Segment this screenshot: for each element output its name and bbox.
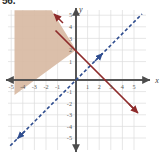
graph-svg: -5 -4 -3 -2 -1 1 2 3 4 5 5 4 3 2 1 -1 -2… xyxy=(0,6,168,160)
x-tick-label: 4 xyxy=(121,83,124,90)
x-tick-label: -2 xyxy=(43,83,48,90)
solid-line-arrow-lower-right xyxy=(129,104,138,113)
x-axis-label: x xyxy=(154,76,159,85)
x-tick-label: -3 xyxy=(32,83,37,90)
x-tick-label: -4 xyxy=(20,83,25,90)
dashed-line-arrow-lower-left xyxy=(18,131,26,139)
y-tick-label: 1 xyxy=(69,58,72,65)
x-tick-label: -5 xyxy=(9,83,14,90)
dashed-line-arrow-upper-right xyxy=(95,54,103,62)
x-tick-label: 1 xyxy=(86,83,89,90)
x-tick-label: 3 xyxy=(109,83,112,90)
y-tick-label: -4 xyxy=(67,123,72,130)
y-tick-label: 5 xyxy=(69,11,72,18)
y-axis-label: y xyxy=(78,6,83,14)
y-tick-label: 4 xyxy=(69,23,72,30)
x-tick-label: -1 xyxy=(55,83,60,90)
x-tick-label: 5 xyxy=(132,83,135,90)
x-tick-label: 2 xyxy=(98,83,101,90)
coordinate-plane: -5 -4 -3 -2 -1 1 2 3 4 5 5 4 3 2 1 -1 -2… xyxy=(0,6,168,160)
y-tick-label: -3 xyxy=(67,111,72,118)
y-tick-label: -1 xyxy=(67,88,72,95)
y-tick-label: -2 xyxy=(67,100,72,107)
y-tick-label: 2 xyxy=(69,46,72,53)
figure-container: 56. xyxy=(0,0,168,160)
y-tick-labels: 5 4 3 2 1 -1 -2 -3 -4 -5 xyxy=(67,11,72,141)
y-tick-label: 3 xyxy=(69,35,72,42)
y-tick-label: -5 xyxy=(67,134,72,141)
